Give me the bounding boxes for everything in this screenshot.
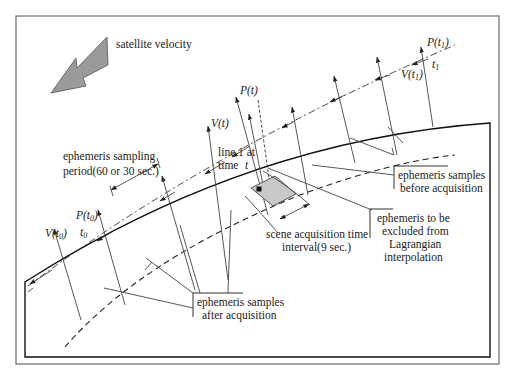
- tick-1: [145, 262, 152, 270]
- satellite-velocity-arrow-icon: [51, 37, 108, 93]
- leader-after-1: [104, 288, 193, 308]
- P-t1-label: P(t1): [426, 36, 449, 50]
- velocity-arrow-5: [282, 121, 295, 128]
- ephemeris-interpolation-diagram: satellite velocity ephemeris sampling pe…: [0, 0, 513, 386]
- leader-after-2: [146, 258, 193, 293]
- position-vector-6: [334, 76, 355, 163]
- excluded-label-1: ephemeris to be: [377, 212, 450, 225]
- velocity-arrow-6: [330, 95, 345, 102]
- sampling-period-label-1: ephemeris sampling: [63, 150, 156, 163]
- scene-interval-label-1: scene acquisition time: [266, 228, 368, 241]
- leader-after-3: [180, 225, 200, 293]
- excluded-label-2: excluded from: [382, 225, 449, 237]
- leader-after-4: [228, 210, 231, 293]
- position-vector-t0: [54, 229, 81, 320]
- sampling-period-label-2: period(60 or 30 sec.): [63, 165, 159, 178]
- scene-center-point: [257, 187, 262, 192]
- line1-at-label-2: time: [218, 159, 238, 171]
- sampling-period-tick-a: [110, 186, 113, 196]
- samples-before-label-2: before acquisition: [400, 182, 483, 195]
- V-t-label: V(t): [211, 117, 229, 130]
- position-vector-1: [98, 210, 125, 305]
- tick-2: [28, 288, 33, 292]
- t0-label: t0: [80, 226, 87, 240]
- scene-interval-label-2: interval(9 sec.): [282, 241, 351, 254]
- samples-after-label-2: after acquisition: [202, 309, 277, 322]
- line1-at-label-1: line 1 at: [218, 146, 256, 158]
- samples-after-label-1: ephemeris samples: [197, 296, 285, 309]
- excluded-label-4: interpolation: [384, 251, 443, 264]
- leader-before-2: [350, 138, 394, 155]
- V-t1-label: V(t1): [401, 68, 423, 82]
- position-vector-2: [162, 176, 195, 290]
- velocity-arrow-7: [375, 75, 390, 80]
- position-vector-5: [292, 107, 308, 195]
- samples-before-label-1: ephemeris samples: [398, 169, 486, 182]
- line1-time-t: t: [245, 159, 249, 171]
- excluded-label-3: Lagrangian: [389, 238, 442, 251]
- P-t-label: P(t): [239, 84, 258, 97]
- leader-before-3: [312, 165, 394, 175]
- satellite-velocity-label: satellite velocity: [116, 38, 192, 51]
- t1-label: t1: [432, 58, 439, 72]
- P-t0-label: P(t0): [75, 209, 98, 223]
- V-t0-label: V(t0): [45, 227, 67, 241]
- scene-interval-arrow: [280, 204, 309, 219]
